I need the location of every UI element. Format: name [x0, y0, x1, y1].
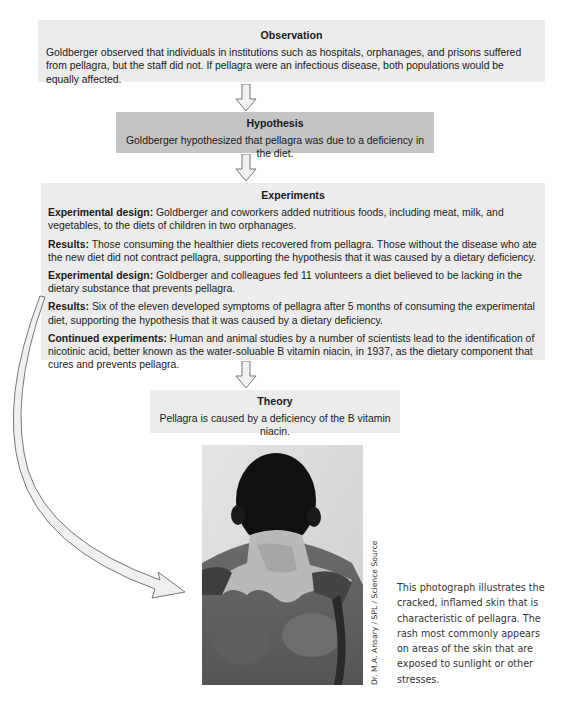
experiment-item: Results: Those consuming the healthier d… — [48, 238, 538, 264]
experiment-item-label: Continued experiments: — [48, 333, 167, 344]
experiment-item: Continued experiments: Human and animal … — [48, 332, 538, 372]
experiments-title: Experiments — [48, 189, 538, 202]
down-arrow-icon — [234, 154, 258, 182]
photo-image — [202, 445, 363, 685]
photo-caption: This photograph illustrates the cracked,… — [397, 580, 547, 687]
experiment-item: Results: Six of the eleven developed sym… — [48, 300, 538, 326]
experiment-item-label: Results: — [48, 301, 89, 312]
theory-box: Theory Pellagra is caused by a deficienc… — [150, 390, 400, 433]
hypothesis-title: Hypothesis — [122, 117, 428, 130]
photo-credit: Dr. M.A. Ansary / SPL / Science Source — [370, 540, 379, 685]
experiment-item-text: Six of the eleven developed symptoms of … — [48, 301, 535, 325]
hypothesis-text: Goldberger hypothesized that pellagra wa… — [122, 134, 428, 160]
observation-box: Observation Goldberger observed that ind… — [38, 20, 545, 82]
down-arrow-icon — [234, 84, 258, 112]
experiment-item-label: Experimental design: — [48, 207, 153, 218]
experiment-item: Experimental design: Goldberger and coll… — [48, 269, 538, 295]
observation-title: Observation — [46, 29, 537, 42]
theory-text: Pellagra is caused by a deficiency of th… — [156, 412, 394, 438]
pellagra-photo — [202, 445, 363, 685]
theory-title: Theory — [156, 395, 394, 408]
experiment-item-label: Experimental design: — [48, 270, 153, 281]
down-arrow-icon — [234, 361, 258, 389]
experiment-item-text: Those consuming the healthier diets reco… — [48, 239, 537, 263]
experiments-box: Experiments Experimental design: Goldber… — [41, 183, 545, 360]
observation-text: Goldberger observed that individuals in … — [46, 46, 537, 86]
experiment-item: Experimental design: Goldberger and cowo… — [48, 206, 538, 232]
experiment-item-label: Results: — [48, 239, 89, 250]
hypothesis-box: Hypothesis Goldberger hypothesized that … — [116, 112, 434, 153]
